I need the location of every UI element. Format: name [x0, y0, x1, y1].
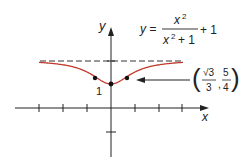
- svg-text:4: 4: [223, 82, 229, 93]
- inflection-point-right: [125, 76, 129, 80]
- svg-text:): ): [231, 63, 240, 93]
- equation-label: y = x 2 x 2 + 1 + 1: [139, 12, 217, 47]
- svg-text:3: 3: [206, 82, 212, 93]
- svg-text:x: x: [162, 33, 170, 47]
- arrow-head-icon: [136, 77, 145, 83]
- point-label-1: 1: [96, 85, 102, 97]
- minimum-point: [109, 82, 114, 87]
- svg-text:x: x: [173, 13, 181, 27]
- svg-text:+ 1: + 1: [200, 23, 217, 37]
- y-axis-arrow-icon: [108, 27, 114, 36]
- svg-text:2: 2: [171, 32, 176, 41]
- x-axis-label: x: [201, 110, 209, 124]
- svg-text:(: (: [192, 63, 201, 93]
- svg-text:+ 1: + 1: [178, 33, 195, 47]
- svg-text:√3: √3: [203, 67, 214, 78]
- y-axis-label: y: [98, 18, 107, 33]
- svg-text:2: 2: [182, 12, 187, 21]
- svg-text:y =: y =: [139, 22, 156, 36]
- annotation-coordinates: ( √3 3 , 5 4 ): [192, 63, 240, 93]
- svg-text:,: ,: [218, 79, 221, 90]
- inflection-point-left: [93, 76, 97, 80]
- chart: y x 1 y = x 2 x 2 + 1 + 1 ( √3 3 , 5 4 ): [0, 0, 247, 164]
- svg-text:5: 5: [223, 67, 229, 78]
